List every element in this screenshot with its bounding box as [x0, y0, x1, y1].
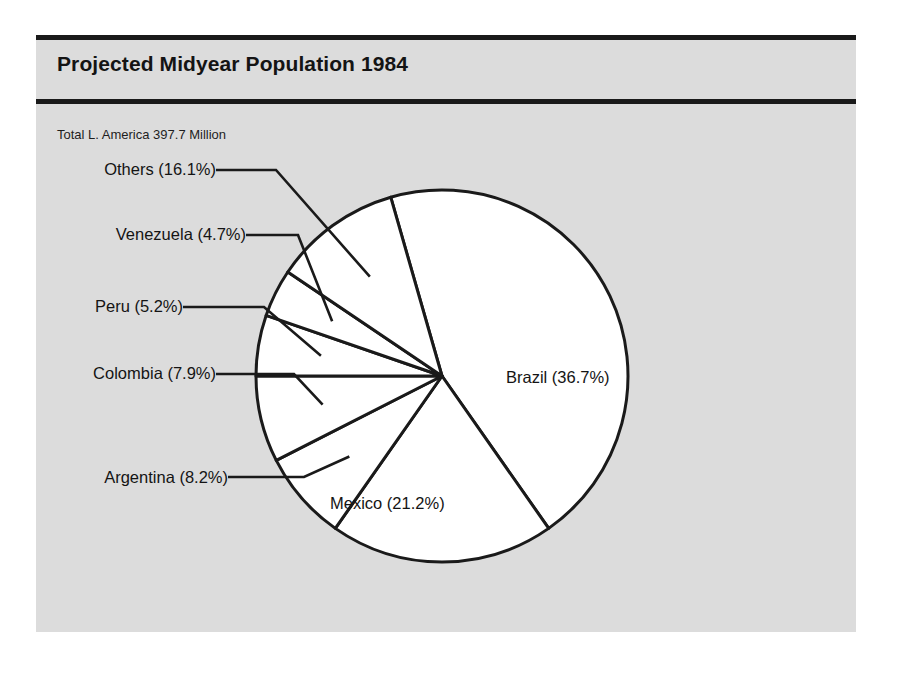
chart-panel: Projected Midyear Population 1984 Total …: [36, 35, 856, 632]
slice-label-mexico: Mexico (21.2%): [330, 494, 445, 512]
slice-label-peru: Peru (5.2%): [95, 297, 183, 315]
slice-label-others: Others (16.1%): [104, 160, 216, 178]
slice-label-brazil: Brazil (36.7%): [506, 368, 610, 386]
slice-label-argentina: Argentina (8.2%): [104, 468, 228, 486]
slice-label-venezuela: Venezuela (4.7%): [116, 225, 246, 243]
slice-label-colombia: Colombia (7.9%): [93, 364, 216, 382]
pie-chart: Brazil (36.7%)Mexico (21.2%)Argentina (8…: [36, 35, 856, 632]
